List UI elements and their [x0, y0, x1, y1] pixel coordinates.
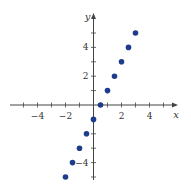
- y-tick-label: 2: [83, 71, 89, 81]
- data-point: [77, 145, 83, 151]
- y-tick-label: −4: [75, 158, 89, 168]
- x-axis-arrow-icon: [172, 103, 178, 108]
- x-tick-label: −4: [31, 111, 45, 121]
- data-point: [63, 174, 69, 180]
- data-point: [112, 73, 118, 79]
- data-point: [126, 45, 132, 51]
- data-point: [119, 59, 125, 65]
- y-axis-arrow-icon: [91, 13, 96, 19]
- data-point: [105, 88, 111, 94]
- data-point: [84, 131, 90, 137]
- data-point: [133, 30, 139, 36]
- x-tick-label: 2: [119, 111, 125, 121]
- x-tick-label: −2: [59, 111, 72, 121]
- y-tick-label: 4: [83, 42, 89, 52]
- data-point: [70, 160, 76, 166]
- axes: −4−22442−4xy: [10, 11, 179, 180]
- y-axis-label: y: [84, 11, 91, 22]
- scatter-chart: −4−22442−4xy: [0, 0, 191, 188]
- x-tick-label: 4: [147, 111, 153, 121]
- data-point: [91, 117, 97, 123]
- x-axis-label: x: [173, 109, 179, 120]
- data-point: [98, 102, 104, 108]
